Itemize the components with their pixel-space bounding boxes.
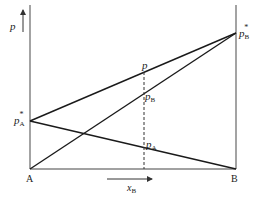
pB-label: pB [144,90,156,104]
diagram-canvas: p pB* pA* p pB pA A B xB [0,0,253,199]
x-axis-label: xB [126,182,136,195]
pB-star-label: pB* [238,23,250,41]
total-pressure-line [30,33,236,121]
left-end-label: A [26,173,34,184]
partial-pA-line [30,121,236,169]
pA-star-label: pA* [13,110,25,128]
partial-pB-line [30,33,236,169]
y-axis-label: p [9,20,16,32]
right-end-label: B [231,173,238,184]
total-p-label: p [141,59,148,71]
pA-label: pA [145,138,157,152]
